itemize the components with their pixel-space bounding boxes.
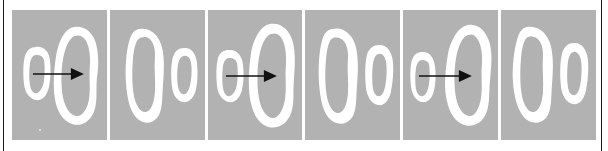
- panel-6-graphic: [501, 10, 596, 140]
- image-panel-1[interactable]: [12, 10, 107, 140]
- image-panel-4[interactable]: [305, 10, 400, 140]
- figure-container: [0, 0, 608, 151]
- panel-2-graphic: [110, 10, 205, 140]
- figure-left-rule: [3, 0, 4, 151]
- panel-5-graphic: [403, 10, 498, 140]
- blob-small-left-5: [411, 52, 436, 102]
- image-panel-6[interactable]: [501, 10, 596, 140]
- blob-large-left-4: [319, 28, 358, 123]
- image-panel-3[interactable]: [208, 10, 303, 140]
- image-panel-5[interactable]: [403, 10, 498, 140]
- panel-3-graphic: [208, 10, 303, 140]
- blob-small-right-4: [366, 45, 394, 105]
- image-panel-2[interactable]: [110, 10, 205, 140]
- panel-4-graphic: [305, 10, 400, 140]
- blob-large-left-6: [513, 27, 553, 123]
- blob-small-right-2: [171, 48, 197, 102]
- panel-1-speck: [39, 129, 41, 131]
- panel-1-graphic: [12, 10, 107, 140]
- blob-small-right-6: [560, 43, 588, 104]
- figure-right-rule: [601, 0, 602, 151]
- panel-strip: [12, 10, 596, 140]
- blob-large-left-2: [125, 29, 163, 123]
